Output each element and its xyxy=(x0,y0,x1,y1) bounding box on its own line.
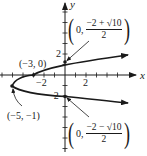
point-x-intercept xyxy=(32,73,36,77)
tick-label-x-pos2: 2 xyxy=(83,78,88,88)
point-lower-y-intercept xyxy=(63,95,67,99)
label-lower-y-intercept: ( 0, −2 − √10 2 ) xyxy=(66,118,132,148)
tick-label-y-pos2: 2 xyxy=(56,49,61,59)
right-paren: ) xyxy=(124,14,130,44)
numerator: −2 − √10 xyxy=(86,122,123,134)
label-x-intercept: (−3, 0) xyxy=(19,59,46,69)
x-axis-label: x xyxy=(140,70,145,81)
denominator: 2 xyxy=(102,134,107,145)
x-coord: 0, xyxy=(76,128,84,139)
leader-lower xyxy=(67,98,89,117)
tick-label-y-neg2: −2 xyxy=(48,91,59,101)
point-upper-y-intercept xyxy=(63,60,67,64)
x-coord: 0, xyxy=(76,24,84,35)
y-axis-label: y xyxy=(70,0,75,10)
label-upper-y-intercept: ( 0, −2 + √10 2 ) xyxy=(66,14,132,44)
denominator: 2 xyxy=(102,30,107,41)
leader-vertex xyxy=(13,89,22,106)
left-paren: ( xyxy=(68,14,74,44)
point-vertex xyxy=(10,84,14,88)
fraction: −2 − √10 2 xyxy=(86,122,123,145)
fraction: −2 + √10 2 xyxy=(86,18,123,41)
tick-label-x-neg2: −2 xyxy=(36,78,47,88)
right-paren: ) xyxy=(124,118,130,148)
left-paren: ( xyxy=(68,118,74,148)
numerator: −2 + √10 xyxy=(86,18,123,30)
label-vertex: (−5, −1) xyxy=(7,111,40,121)
